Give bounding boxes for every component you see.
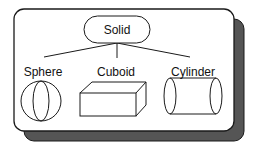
root-node: Solid: [84, 16, 150, 43]
child-label-sphere: Sphere: [24, 65, 63, 79]
child-label-cylinder: Cylinder: [171, 65, 215, 79]
child-label-cuboid: Cuboid: [97, 65, 135, 79]
root-label: Solid: [104, 23, 131, 37]
diagram-canvas: Solid Sphere Cuboid Cylinder: [0, 0, 253, 147]
